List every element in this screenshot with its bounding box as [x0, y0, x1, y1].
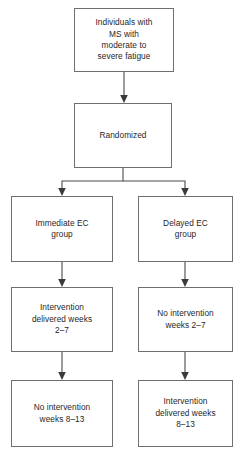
node-immediate-no-intervention-weeks-8-13: No intervention weeks 8–13: [11, 380, 113, 447]
node-delayed-intervention-weeks-8-13-label: Intervention delivered weeks 8–13: [152, 396, 218, 430]
node-delayed-intervention-weeks-8-13: Intervention delivered weeks 8–13: [138, 380, 233, 447]
node-randomized-label: Randomized: [96, 130, 149, 141]
node-immediate-ec-group: Immediate EC group: [11, 196, 113, 262]
node-immediate-intervention-weeks-2-7-label: Intervention delivered weeks 2–7: [29, 302, 95, 336]
node-immediate-no-intervention-weeks-8-13-label: No intervention weeks 8–13: [31, 402, 94, 425]
edge-population-to-randomized: [120, 72, 128, 103]
node-population-label: Individuals with MS with moderate to sev…: [92, 17, 155, 63]
node-delayed-no-intervention-weeks-2-7: No intervention weeks 2–7: [138, 287, 233, 352]
node-population: Individuals with MS with moderate to sev…: [74, 8, 174, 72]
flowchart-diagram: Individuals with MS with moderate to sev…: [0, 0, 245, 454]
node-delayed-ec-group: Delayed EC group: [138, 196, 233, 262]
node-delayed-no-intervention-weeks-2-7-label: No intervention weeks 2–7: [154, 308, 217, 331]
edge-immediate-arm-to-phase1: [58, 262, 66, 287]
node-delayed-ec-group-label: Delayed EC group: [160, 218, 211, 241]
node-immediate-intervention-weeks-2-7: Intervention delivered weeks 2–7: [11, 287, 113, 352]
edge-delayed-phase1-to-phase2: [181, 352, 189, 380]
edge-randomized-split: [58, 168, 189, 196]
node-immediate-ec-group-label: Immediate EC group: [32, 218, 91, 241]
edge-delayed-arm-to-phase1: [181, 262, 189, 287]
node-randomized: Randomized: [74, 103, 172, 168]
edge-immediate-phase1-to-phase2: [58, 352, 66, 380]
